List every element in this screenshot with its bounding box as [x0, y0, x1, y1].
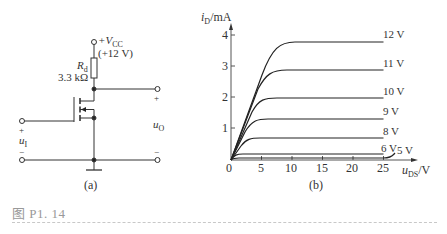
series-label-11v: 11 V	[383, 57, 404, 69]
curve-8v	[231, 138, 384, 160]
x-tick-20: 20	[346, 161, 358, 175]
curve-11v	[231, 70, 384, 160]
series-label-10v: 10 V	[383, 85, 405, 97]
input-plus-terminal	[20, 119, 25, 124]
caption-divider	[12, 222, 437, 223]
y-tick-3: 3	[222, 59, 228, 73]
y-tick-1: 1	[222, 121, 228, 135]
output-minus-sign: −	[154, 147, 159, 157]
circuit-diagram	[20, 40, 161, 171]
series-label-5v: 5 V	[397, 144, 413, 156]
input-minus-terminal	[20, 158, 25, 163]
y-tick-4: 4	[222, 28, 228, 42]
x-axis-arrow-icon	[411, 158, 418, 162]
x-tick-10: 10	[285, 161, 297, 175]
x-axis-label: uDS/V	[402, 163, 431, 179]
series-label-9v: 9 V	[383, 105, 399, 117]
y-axis-label: iD/mA	[201, 10, 232, 26]
series-label-6v: 6 V	[381, 142, 397, 154]
output-plus-terminal	[155, 87, 160, 92]
y-axis-arrow-icon	[229, 23, 233, 30]
output-characteristics-chart: 4 3 2 1 0 5 10 15 20 25 iD/mA uDS/V 12 V…	[201, 10, 431, 192]
output-minus-terminal	[155, 158, 160, 163]
x-tick-5: 5	[258, 161, 264, 175]
curve-10v	[231, 98, 384, 160]
series-label-12v: 12 V	[383, 28, 405, 40]
mosfet-icon	[74, 97, 94, 122]
figure-canvas: +VCC (+12 V) Rd 3.3 kΩ + uI − + uO − (a)	[0, 0, 447, 234]
series-label-8v: 8 V	[383, 125, 399, 137]
figure-caption: 图 P1. 14	[12, 203, 65, 222]
rd-value: 3.3 kΩ	[58, 71, 88, 83]
output-plus-sign: +	[154, 93, 159, 103]
vcc-terminal	[92, 40, 97, 45]
y-tick-2: 2	[222, 90, 228, 104]
input-minus-sign: −	[19, 147, 24, 157]
panel-b-label: (b)	[309, 178, 323, 192]
output-label: uO	[153, 118, 165, 133]
vcc-value: (+12 V)	[98, 47, 133, 60]
x-tick-25: 25	[377, 161, 389, 175]
x-tick-15: 15	[316, 161, 328, 175]
x-tick-0: 0	[226, 161, 232, 175]
panel-a-label: (a)	[84, 178, 97, 192]
curve-6v	[231, 154, 384, 160]
ground-node	[92, 158, 96, 162]
resistor-rd	[91, 58, 97, 78]
